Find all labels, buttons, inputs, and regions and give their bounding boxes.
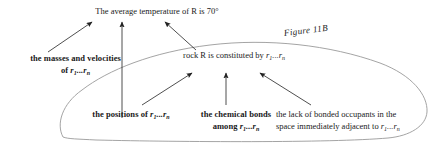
arrow-masses-to-top-claim [48,22,92,52]
mid-claim-variable-range: r1...rn [266,50,285,60]
arrow-mid-claim-to-top-claim [165,22,196,50]
mid-claim-prefix: rock R is constituted by [183,50,266,60]
var-last-index: n [166,114,169,120]
var-last-index: n [256,126,259,132]
masses-line-2-prefix: of [61,65,70,75]
node-top-claim: The average temperature of R is 70° [57,6,257,18]
top-claim-text: The average temperature of R is 70° [95,6,218,16]
var-first-index: 1 [243,126,246,132]
masses-line-1: the masses and velocities [30,53,121,63]
bonds-line-2-prefix: among [213,121,240,131]
var-last-index: n [397,126,400,132]
lack-line-1: the lack of bonded occupants in the [276,109,396,119]
var-first-index: 1 [153,114,156,120]
masses-variable-range: r1...rn [70,65,90,75]
bonds-line-1: the chemical bonds [201,109,271,119]
var-first-index: 1 [384,126,387,132]
arrow-lack-to-mid-claim [260,73,311,105]
node-masses-and-velocities: the masses and velocities of r1...rn [8,53,143,77]
bonds-variable-range: r1...rn [240,121,260,131]
lack-variable-range: r1...rn [381,121,400,131]
node-positions: the positions of r1...rn [72,109,190,122]
figure-diagram: The average temperature of R is 70° rock… [0,0,443,149]
node-mid-claim: rock R is constituted by r1...rn [148,50,320,63]
lack-line-2-prefix: space immediately adjacent to [276,121,381,131]
var-first-index: 1 [269,55,272,61]
var-last-index: n [282,55,285,61]
positions-line-1-prefix: the positions of [92,109,150,119]
var-last-index: n [87,70,90,76]
var-first-index: 1 [74,70,77,76]
node-chemical-bonds: the chemical bonds among r1...rn [182,109,290,133]
arrow-positions-to-mid-claim [142,73,192,105]
positions-variable-range: r1...rn [150,109,170,119]
node-lack-of-bonded-occupants: the lack of bonded occupants in the spac… [276,109,438,133]
